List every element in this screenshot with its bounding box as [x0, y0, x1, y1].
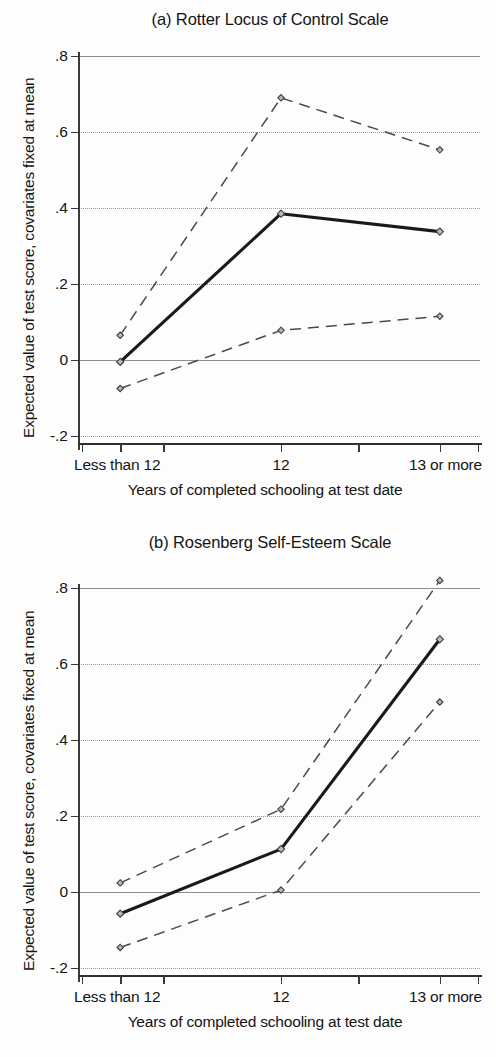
data-point-marker [117, 385, 123, 391]
chart-panel-b: (b) Rosenberg Self-Esteem Scale Expected… [0, 521, 496, 1057]
data-point-marker [437, 147, 443, 153]
series-layer [0, 521, 496, 1057]
data-point-marker [278, 327, 284, 333]
chart-panel-a: (a) Rotter Locus of Control Scale Expect… [0, 0, 496, 520]
data-point-marker [437, 699, 443, 705]
series-line [120, 580, 440, 883]
data-point-marker [117, 944, 123, 950]
series-line [120, 639, 440, 913]
figure-container: (a) Rotter Locus of Control Scale Expect… [0, 0, 496, 1057]
series-line [120, 214, 440, 362]
data-point-marker [278, 887, 284, 893]
series-layer [0, 0, 496, 520]
series-line [120, 316, 440, 388]
series-line [120, 702, 440, 948]
data-point-marker [437, 313, 443, 319]
data-point-marker [436, 228, 443, 235]
data-point-marker [278, 95, 284, 101]
data-point-marker [117, 880, 123, 886]
